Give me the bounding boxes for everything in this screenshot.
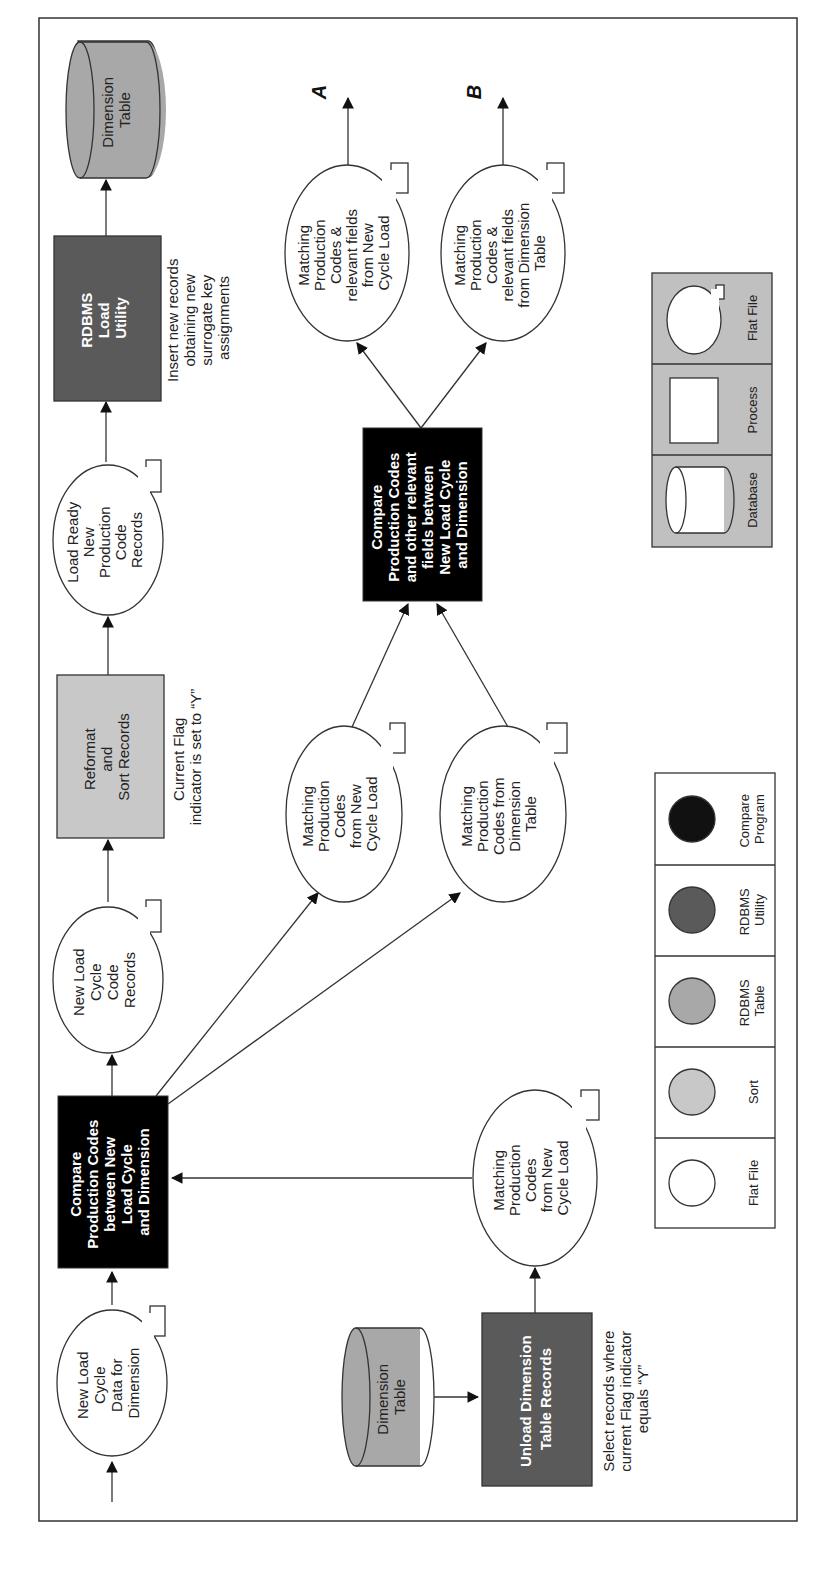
note-line: Current Flag	[170, 718, 187, 801]
label-line: from New	[538, 1148, 555, 1212]
legend-label: Utility	[752, 894, 767, 926]
label-line: Code	[112, 524, 129, 560]
label-line: Cycle Load	[363, 776, 380, 851]
label-line: Codes &	[327, 226, 344, 284]
label-line: Table Records	[537, 1348, 554, 1450]
svg-text:Sort: Sort	[746, 1080, 761, 1104]
label-line: Utility	[112, 297, 129, 339]
legend-swatch-flat-file	[669, 1160, 715, 1206]
label-line: Production	[506, 1144, 523, 1216]
label-line: Cycle	[87, 963, 104, 1001]
label-line: Records	[128, 512, 145, 568]
label-line: Dimension	[125, 1348, 142, 1419]
label-line: from New	[347, 784, 364, 848]
note-line: Insert new records	[164, 259, 181, 382]
label-line: Production Codes	[385, 453, 402, 582]
label-line: Dimension	[99, 77, 116, 148]
label-line: Codes	[331, 795, 348, 838]
note-line: obtaining new	[181, 274, 198, 367]
label-line: and other relevant	[402, 452, 419, 582]
legend-swatch-compare-program	[669, 796, 715, 842]
legend-label: Sort	[746, 1080, 761, 1104]
label-line: Dimension	[506, 781, 523, 852]
connector-b-label: B	[463, 85, 485, 99]
process-compare-production-codes: Compare Production Codes between New Loa…	[58, 1096, 168, 1268]
label-line: and	[98, 747, 115, 772]
label-line: relevant fields	[343, 209, 360, 302]
label-line: Table	[531, 235, 548, 271]
label-line: Matching	[490, 1150, 507, 1211]
label-line: Codes from	[490, 777, 507, 855]
legend-label: Flat File	[746, 1160, 761, 1206]
label-line: Code	[104, 964, 121, 1000]
process-unload-dimension-table-records: Unload Dimension Table Records	[482, 1313, 592, 1486]
flat-file-matching-relevant-dimension: Matching Production Codes & relevant fie…	[441, 163, 565, 341]
note-line: equals “Y”	[634, 1365, 651, 1433]
label-line: Table	[522, 796, 539, 832]
label-line: Unload Dimension	[517, 1335, 534, 1467]
label-line: and Dimension	[453, 461, 470, 569]
note-line: assignments	[215, 276, 232, 360]
data-flow-diagram: New Load Cycle Data for Dimension Compar…	[0, 0, 814, 1589]
label-line: Records	[121, 952, 138, 1008]
label-line: Codes	[522, 1159, 539, 1202]
label-line: Compare	[67, 1152, 84, 1217]
label-line: Production	[96, 506, 113, 578]
legend-colors: Flat File Sort RDBMS Table RDBMS Utility…	[655, 773, 775, 1228]
label-line: from New	[359, 223, 376, 287]
label-line: Cycle Load	[554, 1140, 571, 1215]
label-line: Matching	[299, 786, 316, 847]
legend-label: RDBMS	[737, 979, 752, 1026]
label-line: Load Ready	[64, 501, 81, 582]
label-line: Dimension	[374, 1364, 391, 1435]
label-line: Matching	[295, 225, 312, 286]
legend-swatch-sort	[669, 1069, 715, 1115]
label-line: Codes &	[483, 226, 500, 284]
label-line: relevant fields	[499, 209, 516, 302]
label-line: New Load	[70, 948, 87, 1016]
label-line: Production Codes	[84, 1120, 101, 1249]
label-line: Table	[116, 92, 133, 128]
label-line: RDBMS	[78, 293, 95, 348]
legend-label: Database	[745, 472, 760, 528]
flat-file-matching-relevant-new: Matching Production Codes & relevant fie…	[285, 163, 409, 341]
database-dimension-table-top: Dimension Table	[65, 41, 166, 178]
label-line: New	[80, 527, 97, 557]
legend-label: RDBMS	[737, 888, 752, 935]
label-line: Production	[474, 780, 491, 852]
connector-a-label: A	[308, 85, 330, 100]
label-line: Cycle	[91, 1366, 108, 1404]
label-line: Production	[311, 219, 328, 291]
label-line: Matching	[458, 786, 475, 847]
label-line: Compare	[368, 485, 385, 550]
label-line: Reformat	[81, 728, 98, 791]
svg-text:Compare Program: Compare Program	[737, 790, 767, 847]
process-rdbms-load-utility: RDBMS Load Utility	[54, 236, 161, 401]
label-line: Cycle Load	[375, 215, 392, 290]
label-line: New Load	[74, 1351, 91, 1419]
legend-label: Program	[752, 794, 767, 844]
legend-swatch-rdbms-utility	[669, 887, 715, 933]
legend-label: Process	[745, 386, 760, 433]
label-line: Data for	[108, 1359, 125, 1412]
label-line: Production	[467, 219, 484, 291]
label-line: Table	[391, 1379, 408, 1415]
label-line: fields between	[419, 466, 436, 569]
label-line: and Dimension	[135, 1128, 152, 1236]
label-line: Production	[315, 780, 332, 852]
label-line: from Dimension	[515, 203, 532, 308]
legend-label: Flat File	[745, 295, 760, 341]
label-line: New Load Cycle	[436, 460, 453, 575]
note-line: indicator is set to “Y”	[187, 689, 204, 826]
legend-database-icon	[666, 467, 734, 533]
label-line: Matching	[451, 225, 468, 286]
note-line: Select records where	[600, 1331, 617, 1472]
label-line: Load Cycle	[118, 1144, 135, 1224]
label-line: Sort Records	[115, 713, 132, 801]
legend-swatch-rdbms-table	[669, 978, 715, 1024]
label-line: Load	[95, 302, 112, 338]
legend-label: Table	[752, 985, 767, 1016]
legend-shapes: Database Process Flat File	[652, 273, 772, 547]
process-reformat-sort: Reformat and Sort Records	[57, 675, 164, 838]
svg-text:Flat File: Flat File	[746, 1160, 761, 1206]
